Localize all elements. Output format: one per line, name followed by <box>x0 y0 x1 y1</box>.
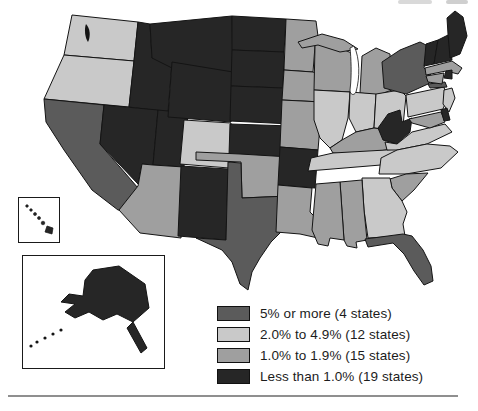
hawaii-island-dot <box>30 209 33 212</box>
figure-canvas: 5% or more (4 states) 2.0% to 4.9% (12 s… <box>0 0 478 411</box>
hawaii-island-dot <box>34 213 37 216</box>
state-mt <box>150 16 233 72</box>
hawaii-big-island <box>45 226 53 234</box>
hawaii-island-dot <box>38 217 41 220</box>
state-me <box>447 11 467 58</box>
alaska-map <box>23 256 164 368</box>
legend-row: Less than 1.0% (19 states) <box>217 366 467 387</box>
state-nd <box>232 16 286 52</box>
legend-label: 1.0% to 1.9% (15 states) <box>260 348 410 363</box>
aleutian-island-dot <box>43 336 46 339</box>
legend-row: 5% or more (4 states) <box>217 303 467 324</box>
hawaii-islands <box>19 198 59 242</box>
legend-swatch-2-to-4-9-percent <box>217 327 250 342</box>
aleutian-island-dot <box>35 340 38 343</box>
state-ms <box>312 182 344 246</box>
aleutian-island-dot <box>51 332 54 335</box>
legend-label: 2.0% to 4.9% (12 states) <box>260 327 410 342</box>
legend-row: 1.0% to 1.9% (15 states) <box>217 345 467 366</box>
hawaii-inset-box <box>18 197 60 243</box>
aleutian-island-dot <box>59 328 62 331</box>
legend-swatch-1-to-1-9-percent <box>217 348 250 363</box>
state-sd <box>231 50 284 88</box>
alaska-inset-box <box>22 255 165 369</box>
legend-swatch-less-than-1-percent <box>217 369 250 384</box>
legend-row: 2.0% to 4.9% (12 states) <box>217 324 467 345</box>
lake-michigan <box>350 46 359 94</box>
state-nm <box>178 166 228 240</box>
state-wy <box>168 62 233 122</box>
hawaii-island-dot <box>26 205 29 208</box>
legend-label: 5% or more (4 states) <box>260 306 392 321</box>
state-wa <box>64 15 138 61</box>
map-legend: 5% or more (4 states) 2.0% to 4.9% (12 s… <box>217 303 467 387</box>
hawaii-island-dot <box>41 221 45 225</box>
legend-label: Less than 1.0% (19 states) <box>260 369 423 384</box>
state-ak <box>61 266 149 353</box>
legend-swatch-5-percent-or-more <box>217 306 250 321</box>
state-az <box>119 164 184 238</box>
state-in <box>349 92 376 132</box>
bottom-horizontal-rule <box>8 395 458 397</box>
state-fl <box>365 234 433 285</box>
state-or <box>44 55 134 107</box>
aleutian-island-dot <box>29 344 32 347</box>
